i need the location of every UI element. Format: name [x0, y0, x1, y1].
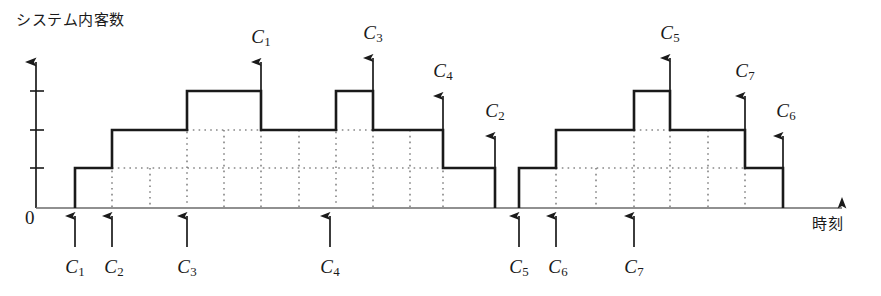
departure-label-C4: C4	[433, 60, 453, 84]
arrival-label-C2: C2	[104, 256, 124, 280]
y-axis-label: システム内客数	[16, 8, 125, 29]
arrival-label-C4: C4	[320, 256, 340, 280]
y-axis	[30, 62, 44, 208]
step-curve-busy-period-2	[519, 91, 783, 208]
arrival-label-C6: C6	[548, 256, 568, 280]
departure-arrows	[261, 58, 783, 168]
departure-label-C1: C1	[251, 26, 271, 50]
grid-lines	[112, 91, 783, 207]
departure-label-C3: C3	[363, 22, 383, 46]
arrival-label-C5: C5	[509, 256, 529, 280]
departure-label-C5: C5	[660, 22, 680, 46]
chart-canvas	[0, 0, 881, 296]
arrival-arrows	[75, 216, 634, 247]
departure-label-C2: C2	[485, 100, 505, 124]
departure-label-C6: C6	[776, 100, 796, 124]
queueing-step-chart: システム内客数 時刻 0 C1 C3 C4 C2 C5 C7 C6 C1 C2 …	[0, 0, 881, 296]
arrival-label-C7: C7	[624, 256, 644, 280]
arrival-label-C1: C1	[65, 256, 85, 280]
x-axis-label: 時刻	[812, 212, 843, 233]
origin-label: 0	[25, 207, 35, 229]
departure-label-C7: C7	[735, 60, 755, 84]
arrival-label-C3: C3	[177, 256, 197, 280]
step-curve-busy-period-1	[75, 91, 495, 208]
